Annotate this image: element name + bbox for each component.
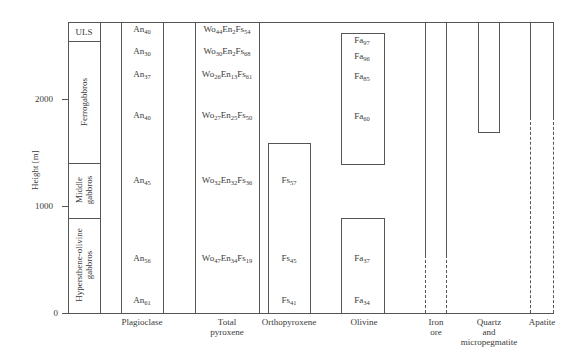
unit-hypersthene-olivine-gabbros: Hypersthene-olivine gabbros [74,228,94,301]
col-label-total-pyroxene: Total pyroxene [210,317,244,337]
opx-comp-3: Fs41 [281,296,296,307]
iron-right-dashed [446,255,447,313]
pyx-comp-5: Wo32En32Fs36 [202,176,252,187]
unit-middle-line1: Middle [74,177,84,203]
unit-uls: ULS [75,28,92,37]
iron-right-solid [446,22,447,255]
plag-comp-2: An30 [133,47,151,58]
plag-comp-1: An40 [133,25,151,36]
plag-comp-7: An61 [133,296,151,307]
plag-right [163,22,164,313]
strat-right-border [100,22,101,313]
iron-left-solid [425,22,426,255]
unit-hyp-line1: Hypersthene-olivine [74,228,84,301]
pyx-comp-1: Wo44En2Fs54 [203,25,250,36]
plag-comp-5: An45 [133,176,151,187]
opx-range-box [268,143,311,314]
strat-left-border [68,22,69,313]
oliv-comp-2: Fa96 [354,52,370,63]
plag-comp-4: An40 [133,111,151,122]
pyx-comp-6: Wo47En34Fs19 [202,254,252,265]
col-label-orthopyroxene: Orthopyroxene [262,317,316,327]
col-label-iron-ore: Iron ore [429,317,444,337]
unit-hyp-line2: gabbros [84,251,94,280]
oliv-comp-5: Fa37 [354,254,370,265]
pyx-right [259,22,260,313]
pyx-comp-2: Wo30En2Fs68 [203,47,250,58]
y-tick-0: 0 [33,308,58,318]
pyx-label-line2: pyroxene [210,327,244,337]
quartz-range-box [478,22,500,133]
uls-boundary [68,41,100,42]
y-tick-1000: 1000 [23,201,53,211]
apatite-left-dashed [530,122,531,313]
iron-label-line1: Iron [429,317,444,327]
iron-label-line2: ore [430,327,442,337]
apatite-left-solid [530,22,531,120]
opx-comp-1: Fs57 [281,176,296,187]
pyx-left [195,22,196,313]
oliv-comp-1: Fa97 [354,36,370,47]
col-label-plagioclase: Plagioclase [122,317,163,327]
plag-comp-3: An37 [133,70,151,81]
unit-ferrogabbros: Ferrogabbros [79,78,89,126]
pyx-comp-4: Wo27En25Fs50 [202,111,252,122]
y-axis-label: Height [m] [30,150,40,190]
oliv-comp-3: Fa85 [354,72,370,83]
plag-comp-6: An56 [133,254,151,265]
plag-left [121,22,122,313]
middle-boundary [68,218,100,219]
iron-left-dashed [425,255,426,313]
oliv-comp-4: Fa60 [354,112,370,123]
apatite-right-dashed [553,122,554,313]
ferro-boundary [68,163,100,164]
unit-middle-line2: gabbros [84,176,94,205]
pyx-comp-3: Wo26En13Fs61 [202,70,252,81]
qtz-label-line3: micropegmatite [461,337,517,347]
baseline [68,313,554,314]
opx-comp-2: Fs45 [281,254,296,265]
col-label-apatite: Apatite [529,317,556,327]
y-tick-2000: 2000 [23,94,53,104]
oliv-comp-6: Fa34 [354,296,370,307]
qtz-label-line2: and [482,327,495,337]
unit-middle-gabbros: Middle gabbros [74,176,94,205]
col-label-quartz: Quartz and micropegmatite [461,317,517,347]
col-label-olivine: Olivine [351,317,378,327]
apatite-right-solid [553,22,554,120]
qtz-label-line1: Quartz [477,317,502,327]
pyx-label-line1: Total [218,317,236,327]
